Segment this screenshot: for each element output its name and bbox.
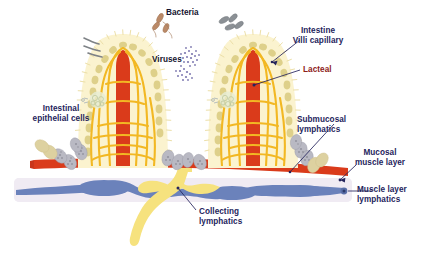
label-mucosal-line2: muscle layer	[340, 158, 420, 168]
label-collecting-lymphatics: Collecting lymphatics	[199, 207, 242, 226]
label-submucosal-line2: lymphatics	[297, 125, 346, 135]
label-intestine-line1: Intestine	[272, 26, 364, 36]
bacteria-cluster-right	[218, 13, 244, 31]
label-submucosal-line1: Submucosal	[297, 115, 346, 125]
label-mucosal-muscle-layer: Mucosal muscle layer	[340, 148, 420, 167]
label-viruses: Viruses	[152, 55, 182, 65]
villus-right	[191, 30, 331, 175]
label-intestine-line2: Villi capillary	[272, 36, 364, 46]
label-intestine-villi-capillary: Intestine Villi capillary	[272, 26, 364, 45]
label-collecting-line1: Collecting	[199, 207, 242, 217]
label-collecting-line2: lymphatics	[199, 217, 242, 227]
label-epithelial-line1: Intestinal	[18, 104, 104, 114]
label-intestinal-epithelial-cells: Intestinal epithelial cells	[18, 104, 104, 123]
label-muscle-layer-lymphatics: Muscle layer lymphatics	[357, 185, 407, 204]
villi-capillary-left	[116, 50, 130, 166]
label-muscle-lymph-line1: Muscle layer	[357, 185, 407, 195]
intestinal-villi-lymphatics-figure: Bacteria Viruses Intestine Villi capilla…	[0, 0, 424, 253]
label-submucosal-lymphatics: Submucosal lymphatics	[297, 115, 346, 134]
villus-left	[33, 30, 195, 172]
label-lacteal: Lacteal	[303, 65, 332, 75]
label-muscle-lymph-line2: lymphatics	[357, 195, 407, 205]
villi-capillary-right	[246, 50, 260, 166]
label-epithelial-line2: epithelial cells	[18, 114, 104, 124]
label-mucosal-line1: Mucosal	[340, 148, 420, 158]
label-bacteria: Bacteria	[166, 8, 199, 18]
